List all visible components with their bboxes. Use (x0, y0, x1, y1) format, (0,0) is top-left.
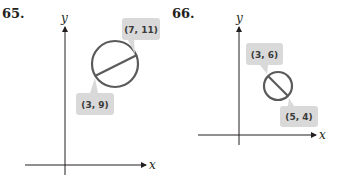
diameter (95, 55, 137, 76)
point-label: (3, 9) (81, 100, 108, 110)
figure-65: y x (7, 11) (3, 9) (25, 11, 160, 175)
figure-66: y x (3, 6) (5, 4) (198, 11, 326, 145)
diameter (268, 76, 288, 96)
point-callout-3-6: (3, 6) (246, 43, 283, 74)
point-callout-7-11: (7, 11) (122, 18, 160, 54)
circle (92, 41, 138, 87)
x-axis-label: x (149, 158, 156, 172)
point-label: (5, 4) (285, 112, 312, 122)
diagram-canvas: y x (7, 11) (3, 9) y x (3, 6) (0, 0, 340, 191)
point-callout-5-4: (5, 4) (280, 98, 318, 127)
y-axis-label: y (235, 11, 243, 25)
point-label: (3, 6) (251, 50, 278, 60)
y-axis-label: y (60, 11, 68, 25)
x-axis-label: x (319, 128, 326, 142)
point-callout-3-9: (3, 9) (76, 78, 114, 115)
point-label: (7, 11) (124, 25, 158, 35)
